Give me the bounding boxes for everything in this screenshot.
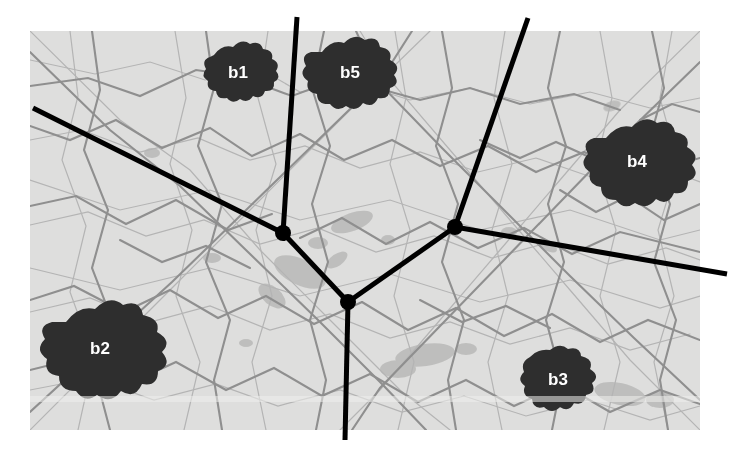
network-node-n3[interactable] [447, 219, 463, 235]
paper-grain-band [30, 396, 700, 402]
network-edge-n2-bottom[interactable] [345, 302, 348, 440]
city-label-b2: b2 [90, 339, 110, 358]
city-label-b3: b3 [548, 370, 568, 389]
network-node-n1[interactable] [275, 225, 291, 241]
network-node-n2[interactable] [340, 294, 356, 310]
map-figure: b1 b2 b3 b4 b5 [0, 0, 729, 455]
figure-canvas: b1 b2 b3 b4 b5 [0, 0, 729, 455]
city-label-b1: b1 [228, 63, 248, 82]
city-label-b5: b5 [340, 63, 360, 82]
map-raster: b1 b2 b3 b4 b5 [30, 31, 700, 430]
city-label-b4: b4 [627, 152, 647, 171]
